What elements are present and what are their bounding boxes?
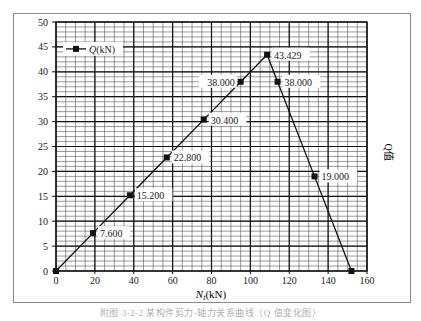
data-marker: [348, 268, 354, 274]
data-label: 19.000: [322, 171, 350, 182]
y-tick-label: 10: [38, 216, 48, 227]
data-label: 38.000: [285, 77, 313, 88]
y-tick-label: 5: [43, 241, 48, 252]
x-axis-label: Nt(kN): [195, 288, 227, 302]
data-marker: [312, 173, 318, 179]
data-label: 38.000: [207, 77, 235, 88]
data-marker: [53, 268, 59, 274]
y-axis-label: Q值: [383, 143, 395, 160]
y-tick-label: 0: [43, 266, 48, 277]
x-tick-label: 100: [243, 275, 258, 286]
data-marker: [264, 52, 270, 58]
figure-caption: 附图 3-2-2 某构件剪力-轴力关系曲线（Q 值变化图）: [0, 306, 421, 319]
data-marker: [275, 79, 281, 85]
legend-marker: [73, 46, 79, 52]
data-marker: [90, 230, 96, 236]
y-tick-label: 15: [38, 191, 48, 202]
data-marker: [238, 79, 244, 85]
x-tick-label: 0: [54, 275, 59, 286]
y-tick-label: 25: [38, 141, 48, 152]
x-tick-label: 40: [129, 275, 139, 286]
x-tick-label: 140: [321, 275, 336, 286]
chart: 0204060801001201401600510152025303540455…: [0, 0, 421, 321]
data-label: 15.200: [137, 190, 165, 201]
data-label: 22.800: [174, 152, 202, 163]
y-tick-label: 20: [38, 166, 48, 177]
x-tick-label: 120: [282, 275, 297, 286]
y-tick-label: 50: [38, 17, 48, 28]
data-label: 7.600: [100, 228, 123, 239]
legend: Q(kN): [63, 42, 123, 56]
x-tick-label: 160: [360, 275, 375, 286]
legend-label: Q(kN): [89, 44, 115, 56]
y-tick-label: 45: [38, 41, 48, 52]
data-label: 43.429: [274, 50, 302, 61]
y-tick-label: 35: [38, 91, 48, 102]
data-marker: [164, 154, 170, 160]
data-marker: [127, 192, 133, 198]
data-label: 30.400: [211, 115, 239, 126]
y-tick-label: 30: [38, 116, 48, 127]
y-tick-label: 40: [38, 66, 48, 77]
x-tick-label: 60: [168, 275, 178, 286]
data-marker: [201, 117, 207, 123]
x-tick-label: 20: [90, 275, 100, 286]
x-tick-label: 80: [207, 275, 217, 286]
